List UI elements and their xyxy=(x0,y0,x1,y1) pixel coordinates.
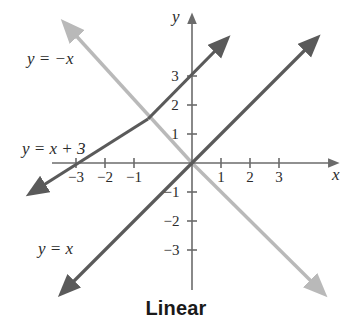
label-y-equals-x: y = x xyxy=(38,240,73,257)
x-tick-label-neg2: −2 xyxy=(95,170,115,185)
x-tick-label-1: 1 xyxy=(214,170,228,185)
x-tick-label-neg1: −1 xyxy=(124,170,144,185)
line-y-equals-x xyxy=(72,48,308,284)
y-axis-label: y xyxy=(172,8,180,25)
y-tick-label-neg2: −2 xyxy=(161,214,182,229)
y-tick-label-3: 3 xyxy=(168,69,182,84)
x-tick-label-2: 2 xyxy=(243,170,257,185)
label-y-equals-x-plus-3: y = x + 3 xyxy=(22,140,86,157)
x-tick-label-neg3: −3 xyxy=(66,170,86,185)
y-axis xyxy=(187,22,197,290)
y-tick-label-neg1: −1 xyxy=(161,185,182,200)
linear-graph-figure: y = −x y = x + 3 y = x x y −3 −2 −1 1 2 … xyxy=(0,0,352,331)
label-y-equals-negative-x: y = −x xyxy=(27,50,74,67)
x-tick-label-3: 3 xyxy=(272,170,286,185)
x-axis-label: x xyxy=(332,166,340,183)
y-tick-label-2: 2 xyxy=(168,98,182,113)
figure-caption: Linear xyxy=(0,297,352,320)
y-tick-label-neg3: −3 xyxy=(161,243,182,258)
y-tick-label-1: 1 xyxy=(168,127,182,142)
